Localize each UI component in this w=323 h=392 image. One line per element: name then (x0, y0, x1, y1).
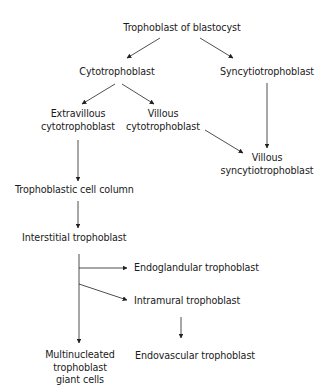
edge-cyto-villous-cyto (122, 84, 154, 104)
node-villous-cytotrophoblast: Villous cytotrophoblast (113, 108, 213, 133)
node-label-line-1: Multinucleated (30, 349, 130, 362)
node-label: Interstitial trophoblast (22, 232, 126, 245)
node-multinucleated-giant-cells: Multinucleated trophoblast giant cells (30, 349, 130, 387)
node-label-line-1: Villous (113, 108, 213, 121)
edge-villous-cyto-villous-syncytio (205, 130, 243, 153)
node-label-line-3: giant cells (30, 374, 130, 387)
node-syncytiotrophoblast: Syncytiotrophoblast (212, 66, 322, 79)
node-label-line-2: trophoblast (30, 362, 130, 375)
node-label: Trophoblast of blastocyst (112, 22, 252, 35)
edge-root-cyto (127, 38, 160, 58)
node-trophoblast-of-blastocyst: Trophoblast of blastocyst (112, 22, 252, 35)
node-label: Endoglandular trophoblast (134, 262, 259, 275)
edge-root-syncytio (200, 38, 233, 58)
node-endoglandular-trophoblast: Endoglandular trophoblast (134, 262, 259, 275)
node-label-line-1: Villous (212, 152, 322, 165)
node-intramural-trophoblast: Intramural trophoblast (134, 295, 240, 308)
edge-cyto-extravillous (82, 84, 115, 104)
node-endovascular-trophoblast: Endovascular trophoblast (135, 350, 255, 363)
node-label: Intramural trophoblast (134, 295, 240, 308)
node-label: Syncytiotrophoblast (212, 66, 322, 79)
node-label-line-2: cytotrophoblast (113, 121, 213, 134)
node-label: Cytotrophoblast (67, 66, 167, 79)
node-trophoblastic-cell-column: Trophoblastic cell column (15, 184, 134, 197)
edge-interstitial-intramural (79, 284, 127, 300)
node-label: Trophoblastic cell column (15, 184, 134, 197)
node-interstitial-trophoblast: Interstitial trophoblast (22, 232, 126, 245)
node-cytotrophoblast: Cytotrophoblast (67, 66, 167, 79)
node-villous-syncytiotrophoblast: Villous syncytiotrophoblast (212, 152, 322, 177)
node-label-line-2: syncytiotrophoblast (212, 165, 322, 178)
node-label: Endovascular trophoblast (135, 350, 255, 363)
